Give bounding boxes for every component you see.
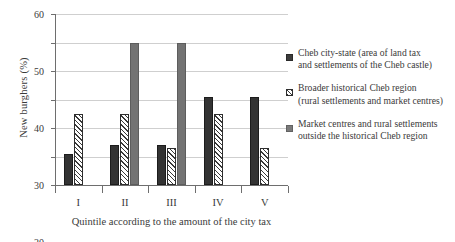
x-tick-label-v: V xyxy=(261,197,269,208)
bar-iii-series1 xyxy=(157,145,166,185)
y-tick-label: 20 xyxy=(34,237,44,242)
legend-entry-3: Market centres and rural settlementsouts… xyxy=(286,118,455,142)
bar-i-series2 xyxy=(74,114,83,185)
y-tick-label: 30 xyxy=(34,180,44,191)
legend-label-2: Broader historical Cheb region(rural set… xyxy=(298,82,443,106)
legend-label-3: Market centres and rural settlementsouts… xyxy=(298,118,438,142)
y-tick-label: 60 xyxy=(34,9,44,20)
legend-swatch-icon-1 xyxy=(286,54,293,61)
plot-area: 0102030405060IIIIIIIVV xyxy=(55,14,288,186)
x-axis-separator xyxy=(195,186,196,193)
x-axis-separator xyxy=(241,186,242,193)
x-tick-label-i: I xyxy=(77,197,81,208)
legend-label-line2: (rural settlements and market centres) xyxy=(298,95,443,107)
bar-iv-series1 xyxy=(204,97,213,185)
legend-entry-1: Cheb city-state (area of land taxand set… xyxy=(286,47,455,71)
x-axis-separator xyxy=(288,186,289,193)
chart-legend: Cheb city-state (area of land taxand set… xyxy=(286,47,455,153)
x-axis-separator xyxy=(102,186,103,193)
y-tick-label: 50 xyxy=(34,66,44,77)
x-axis-separator xyxy=(55,186,56,193)
bar-ii-series2 xyxy=(120,114,129,185)
legend-swatch-icon-2 xyxy=(286,89,293,96)
legend-label-line2: outside the historical Cheb region xyxy=(298,130,438,142)
x-axis-separator xyxy=(148,186,149,193)
legend-label-1: Cheb city-state (area of land taxand set… xyxy=(298,47,432,71)
x-tick-label-iv: IV xyxy=(213,197,224,208)
bar-group-iii xyxy=(148,14,195,185)
y-axis-title: New burghers (%) xyxy=(18,18,29,178)
bar-group-iv xyxy=(195,14,242,185)
legend-label-line1: Market centres and rural settlements xyxy=(298,118,438,130)
legend-label-line1: Broader historical Cheb region xyxy=(298,82,443,94)
bar-ii-series1 xyxy=(110,145,119,185)
bar-i-series1 xyxy=(64,154,73,185)
x-tick-label-iii: III xyxy=(166,197,177,208)
y-tick-label: 40 xyxy=(34,123,44,134)
bar-chart-figure: New burghers (%) 0102030405060IIIIIIIVV … xyxy=(0,0,455,242)
legend-entry-2: Broader historical Cheb region(rural set… xyxy=(286,82,455,106)
x-axis-title: Quintile according to the amount of the … xyxy=(55,216,288,227)
bar-iii-series3 xyxy=(177,43,186,186)
bar-group-ii xyxy=(102,14,149,185)
bar-iii-series2 xyxy=(167,148,176,185)
bar-group-i xyxy=(55,14,102,185)
x-axis-line xyxy=(55,185,288,186)
legend-label-line2: and settlements of the Cheb castle) xyxy=(298,59,432,71)
legend-swatch-icon-3 xyxy=(286,125,293,132)
x-tick-label-ii: II xyxy=(121,197,128,208)
bar-group-v xyxy=(241,14,288,185)
bar-v-series1 xyxy=(250,97,259,185)
bar-ii-series3 xyxy=(130,43,139,186)
legend-label-line1: Cheb city-state (area of land tax xyxy=(298,47,432,59)
bar-iv-series2 xyxy=(214,114,223,185)
bar-v-series2 xyxy=(260,148,269,185)
